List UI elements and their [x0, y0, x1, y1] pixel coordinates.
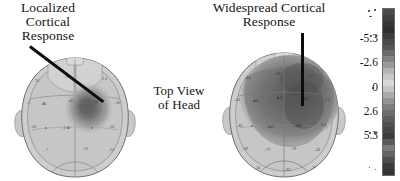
svg-text:-.79: -.79	[290, 147, 296, 151]
svg-text:-.24: -.24	[254, 166, 260, 170]
colorbar-tick-3: 2.6	[338, 106, 378, 118]
right-head-map: -.44-.93 -1.7 -.61-.06 -2.6-3.1 -2.5 -.4…	[216, 47, 352, 179]
colorbar-tick-4: 5.3	[338, 130, 378, 142]
svg-text:-.91: -.91	[82, 147, 88, 151]
svg-text:-.77: -.77	[264, 148, 270, 152]
colorbar-tick-labels: -5.3-2.602.65.3	[338, 4, 378, 178]
svg-text:-.2: -.2	[26, 101, 30, 105]
svg-text:-.37: -.37	[242, 147, 248, 151]
svg-text:-.54: -.54	[108, 148, 114, 152]
colorbar: -5.3-2.602.65.3	[338, 4, 400, 178]
svg-text:-.26: -.26	[33, 79, 39, 83]
colorbar-tick-1: -2.6	[338, 57, 378, 69]
widespread-response-pointer-line	[301, 33, 304, 106]
svg-text:-.49: -.49	[30, 125, 36, 129]
svg-text:-.45: -.45	[236, 124, 242, 128]
svg-text:-1.7: -1.7	[308, 74, 314, 78]
svg-text:-.32: -.32	[284, 168, 290, 172]
svg-text:-2.5: -2.5	[324, 98, 330, 102]
svg-text:-.36: -.36	[108, 125, 114, 129]
svg-text:-.93: -.93	[274, 72, 280, 76]
svg-text:-1.6: -1.6	[101, 77, 107, 81]
svg-text:-.44: -.44	[244, 76, 250, 80]
svg-text:-.71: -.71	[68, 99, 74, 103]
svg-text:-2.6: -2.6	[276, 96, 282, 100]
left-head-map: -.26-.89 -1.6 -.2.46 -.71-.93 -.66 -.49-…	[8, 52, 142, 179]
svg-text:-.61: -.61	[234, 98, 240, 102]
svg-text:-1.10: -1.10	[62, 126, 70, 130]
svg-text:-.41: -.41	[314, 148, 320, 152]
svg-text:-.7: -.7	[44, 148, 48, 152]
colorbar-tick-0: -5.3	[338, 33, 378, 45]
cortical-response-figure: Localized Cortical Response Widespread C…	[0, 0, 400, 181]
svg-text:-.93: -.93	[92, 100, 98, 104]
top-view-of-head-label: Top View of Head	[140, 84, 218, 112]
svg-text:-.06: -.06	[252, 99, 258, 103]
svg-text:-1.4: -1.4	[320, 123, 326, 127]
svg-text:-.66: -.66	[114, 101, 120, 105]
colorbar-gradient-strip	[382, 8, 395, 176]
colorbar-swatch	[383, 169, 394, 175]
svg-text:-.19: -.19	[310, 166, 316, 170]
localized-response-caption: Localized Cortical Response	[2, 1, 94, 42]
widespread-response-caption: Widespread Cortical Response	[196, 1, 342, 29]
